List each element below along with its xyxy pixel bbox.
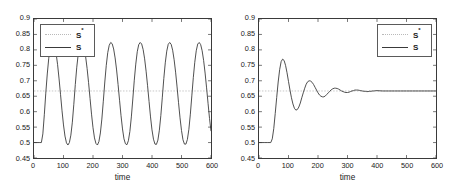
y-tick-0.5: 0.5 [20, 140, 30, 147]
x-tick-500: 500 [401, 162, 413, 169]
x-tick-600: 600 [206, 162, 218, 169]
legend-left: S* S [40, 24, 95, 57]
x-tick-0: 0 [256, 162, 260, 169]
y-tick-0.75: 0.75 [241, 61, 255, 68]
legend-label-sstar-right: S* [413, 29, 421, 40]
y-tick-0.5: 0.5 [245, 140, 255, 147]
x-tick-200: 200 [312, 162, 324, 169]
y-tick-0.8: 0.8 [20, 46, 30, 53]
legend-label-s-right: S [413, 44, 418, 52]
legend-row-sstar-left: S* [45, 28, 89, 41]
y-tick-0.55: 0.55 [16, 124, 30, 131]
y-tick-labels-right: 0.90.850.80.750.70.650.60.550.50.45 [225, 18, 255, 159]
series-line-left [34, 42, 211, 145]
x-axis-label-right: time [258, 173, 437, 182]
x-tick-0: 0 [31, 162, 35, 169]
legend-swatch-solid-icon [382, 47, 408, 48]
x-tick-100: 100 [57, 162, 69, 169]
panel-right: 0.90.850.80.750.70.650.60.550.50.45 S* S… [225, 0, 449, 190]
legend-row-sstar-right: S* [382, 28, 426, 41]
y-tick-0.8: 0.8 [245, 46, 255, 53]
legend-row-s-right: S [382, 41, 426, 54]
panel-left: 0.90.850.80.750.70.650.60.550.50.45 S* S… [0, 0, 224, 190]
x-tick-400: 400 [146, 162, 158, 169]
y-tick-labels-left: 0.90.850.80.750.70.650.60.550.50.45 [0, 18, 30, 159]
y-tick-0.45: 0.45 [241, 155, 255, 162]
y-tick-0.45: 0.45 [16, 155, 30, 162]
y-tick-0.6: 0.6 [20, 108, 30, 115]
y-tick-0.9: 0.9 [20, 14, 30, 21]
y-tick-0.7: 0.7 [20, 77, 30, 84]
legend-label-s-left: S [76, 44, 81, 52]
legend-swatch-dotted-icon [45, 34, 71, 35]
legend-row-s-left: S [45, 41, 89, 54]
x-tick-100: 100 [282, 162, 294, 169]
x-tick-600: 600 [431, 162, 443, 169]
y-tick-0.9: 0.9 [245, 14, 255, 21]
x-tick-500: 500 [176, 162, 188, 169]
y-tick-0.65: 0.65 [16, 93, 30, 100]
y-tick-0.85: 0.85 [16, 30, 30, 37]
y-tick-0.75: 0.75 [16, 61, 30, 68]
y-tick-0.85: 0.85 [241, 30, 255, 37]
x-axis-label-left: time [33, 173, 212, 182]
x-tick-400: 400 [371, 162, 383, 169]
legend-swatch-dotted-icon [382, 34, 408, 35]
y-tick-0.65: 0.65 [241, 93, 255, 100]
x-tick-300: 300 [341, 162, 353, 169]
series-line-right [259, 59, 436, 142]
y-tick-0.6: 0.6 [245, 108, 255, 115]
legend-label-sstar-left: S* [76, 29, 84, 40]
legend-swatch-solid-icon [45, 47, 71, 48]
y-tick-0.55: 0.55 [241, 124, 255, 131]
y-tick-0.7: 0.7 [245, 77, 255, 84]
x-tick-300: 300 [116, 162, 128, 169]
figure-container: 0.90.850.80.750.70.650.60.550.50.45 S* S… [0, 0, 449, 190]
legend-right: S* S [377, 24, 432, 57]
x-tick-200: 200 [87, 162, 99, 169]
